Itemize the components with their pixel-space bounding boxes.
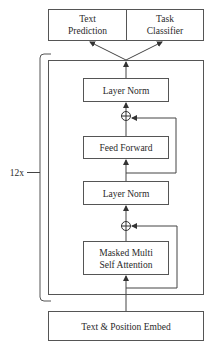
feed-forward-label: Feed Forward — [99, 143, 152, 153]
masked-attention-label-line2: Self Attention — [99, 260, 152, 270]
masked-attention-label-line1: Masked Multi — [99, 248, 153, 258]
add-top-icon — [122, 112, 131, 121]
arrow-to-task-classifier — [126, 42, 162, 60]
add-bottom-icon — [122, 222, 131, 231]
text-prediction-label-line1: Text — [79, 14, 96, 24]
task-classifier-label-line1: Task — [156, 14, 174, 24]
output-heads: Text Prediction Task Classifier — [49, 10, 204, 41]
arrow-to-text-prediction — [90, 42, 126, 60]
layer-norm-bottom-label: Layer Norm — [103, 189, 150, 199]
task-classifier-label-line2: Classifier — [147, 26, 184, 36]
text-prediction-label-line2: Prediction — [68, 26, 107, 36]
transformer-diagram: Text Prediction Task Classifier 12x Laye… — [0, 0, 216, 349]
repeat-count-label: 12x — [10, 168, 25, 178]
layer-norm-top-label: Layer Norm — [103, 86, 150, 96]
text-position-embed-label: Text & Position Embed — [81, 322, 171, 332]
